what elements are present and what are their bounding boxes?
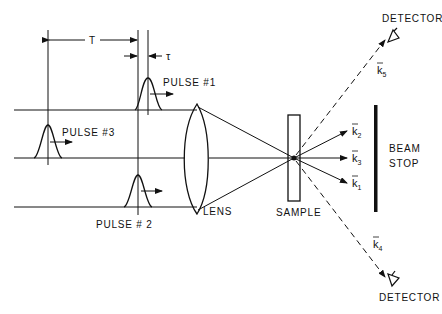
pulse-2-label: PULSE # 2 [96,219,153,230]
k-overbars [352,63,383,237]
detector-top-label: DETECTOR [382,13,442,24]
lens [184,104,208,214]
delay-tau-label: τ [166,50,171,62]
beam-stop-label-1: BEAM [389,143,421,154]
pulse-1-label: PULSE #1 [163,77,216,88]
detector-bottom-label: DETECTOR [379,292,440,303]
k5-label: k5 [377,64,387,78]
beam-stop-label-2: STOP [389,158,419,169]
four-wave-mixing-diagram: T τ PULSE #1 PULSE #3 PULSE # 2 LENS SAM… [0,0,442,314]
detector-top-icon [388,28,399,42]
lens-label: LENS [203,206,232,217]
k1-label: k1 [352,177,362,191]
pulse-3-label: PULSE #3 [62,127,115,138]
sample-label: SAMPLE [276,207,321,218]
detector-bottom-icon [388,271,399,286]
timing-lines [48,30,148,215]
beam-stop [374,105,378,212]
focused-rays [198,107,294,210]
output-beams [296,40,385,277]
delay-T-label: T [89,35,96,46]
k4-label: k4 [373,238,383,252]
beam-lines [14,110,197,207]
k3-label: k3 [352,152,362,166]
k2-label: k2 [352,125,362,139]
